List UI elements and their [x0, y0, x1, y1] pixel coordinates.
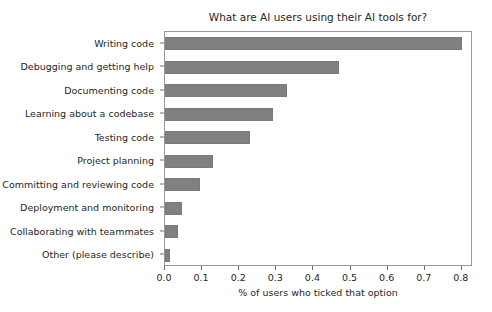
y-axis-tick-label: Writing code: [94, 37, 154, 48]
x-axis-title: % of users who ticked that option: [164, 287, 472, 298]
x-axis-tick-label: 0.0: [156, 272, 171, 283]
bar: [165, 225, 178, 238]
y-axis-tick-label: Deployment and monitoring: [20, 202, 154, 213]
y-axis-tick-label: Other (please describe): [42, 249, 154, 260]
x-axis-tick-mark: [238, 266, 239, 270]
x-axis-tick-mark: [164, 266, 165, 270]
y-axis-tick-label: Collaborating with teammates: [10, 225, 154, 236]
x-axis-tick-mark: [312, 266, 313, 270]
x-axis-tick-label: 0.2: [231, 272, 246, 283]
x-axis-tick-label: 0.6: [379, 272, 394, 283]
bar: [165, 61, 339, 74]
y-axis-tick-label: Learning about a codebase: [25, 108, 154, 119]
x-axis: % of users who ticked that option 0.00.1…: [164, 266, 472, 312]
y-axis-tick-label: Project planning: [77, 155, 154, 166]
bar: [165, 84, 287, 97]
y-axis-tick-label: Testing code: [95, 131, 154, 142]
chart-title: What are AI users using their AI tools f…: [164, 11, 472, 23]
x-axis-tick-mark: [350, 266, 351, 270]
x-axis-tick-mark: [275, 266, 276, 270]
y-axis-tick-label: Committing and reviewing code: [2, 178, 154, 189]
y-axis-tick-label: Debugging and getting help: [21, 61, 154, 72]
x-axis-tick-mark: [461, 266, 462, 270]
x-axis-tick-label: 0.1: [194, 272, 209, 283]
bars-layer: [165, 32, 471, 265]
bar-chart-figure: What are AI users using their AI tools f…: [0, 0, 492, 312]
bar: [165, 108, 273, 121]
x-axis-tick-label: 0.4: [305, 272, 320, 283]
bar: [165, 131, 250, 144]
bar: [165, 37, 462, 50]
x-axis-tick-label: 0.8: [453, 272, 468, 283]
y-axis-tick-label: Documenting code: [64, 84, 154, 95]
bar: [165, 155, 213, 168]
x-axis-tick-label: 0.7: [416, 272, 431, 283]
x-axis-tick-mark: [387, 266, 388, 270]
bar: [165, 249, 170, 262]
y-axis: Writing codeDebugging and getting helpDo…: [0, 31, 164, 266]
x-axis-tick-label: 0.5: [342, 272, 357, 283]
x-axis-tick-mark: [424, 266, 425, 270]
bar: [165, 202, 182, 215]
x-axis-tick-label: 0.3: [268, 272, 283, 283]
x-axis-tick-mark: [201, 266, 202, 270]
plot-area: [164, 31, 472, 266]
bar: [165, 178, 200, 191]
